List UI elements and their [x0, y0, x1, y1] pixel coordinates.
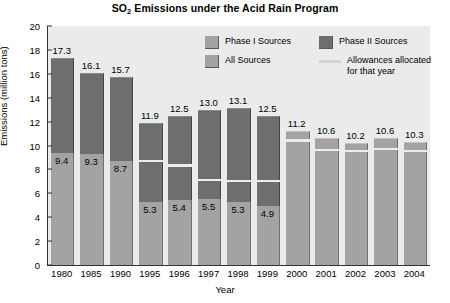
allowance-line — [168, 164, 192, 167]
legend-label-allowances: Allowances allocatedfor that year — [347, 55, 431, 76]
bar-total-label: 13.0 — [199, 97, 218, 108]
bar-segment-phase-ii[interactable] — [80, 73, 104, 154]
x-tick-label: 1996 — [169, 268, 190, 279]
legend-swatch-icon-phase-ii — [319, 36, 333, 49]
bar-group[interactable] — [168, 116, 192, 265]
bar-group[interactable] — [257, 116, 281, 265]
bar-group[interactable] — [80, 73, 104, 265]
bar-total-label: 10.2 — [346, 130, 365, 141]
bar-segment-phase-i[interactable] — [51, 153, 75, 265]
bar-segment-phase-i[interactable] — [110, 161, 134, 265]
y-tick-mark — [47, 217, 52, 218]
bar-total-label: 13.1 — [229, 95, 248, 106]
bar-total-label: 12.5 — [170, 103, 189, 114]
bar-segment-all-sources[interactable] — [374, 138, 398, 265]
chart-legend: Phase I Sources Phase II Sources All Sou… — [205, 36, 433, 82]
bar-phase-i-label: 4.9 — [261, 208, 274, 219]
y-tick-mark — [47, 193, 52, 194]
bar-segment-phase-ii[interactable] — [198, 110, 222, 200]
chart-title-main: SO — [112, 2, 127, 14]
bar-segment-phase-i[interactable] — [80, 154, 104, 265]
bar-segment-phase-ii[interactable] — [110, 77, 134, 161]
legend-line-icon-allowances — [319, 55, 341, 67]
bar-phase-i-label: 9.3 — [84, 156, 97, 167]
bar-total-label: 16.1 — [82, 60, 101, 71]
legend-label-all-sources: All Sources — [225, 55, 271, 66]
bar-phase-i-label: 9.4 — [55, 155, 68, 166]
bar-total-label: 10.3 — [405, 129, 424, 140]
y-tick-label: 18 — [29, 44, 47, 55]
legend-row-1: Phase I Sources Phase II Sources — [205, 36, 433, 49]
bar-group[interactable] — [315, 138, 339, 265]
x-tick-label: 1997 — [198, 268, 219, 279]
bar-segment-phase-ii[interactable] — [257, 116, 281, 207]
bar-segment-all-sources[interactable] — [315, 138, 339, 265]
x-tick-label: 2001 — [316, 268, 337, 279]
x-tick-label: 2004 — [404, 268, 425, 279]
bar-segment-all-sources[interactable] — [345, 143, 369, 265]
bar-total-label: 12.5 — [258, 103, 277, 114]
y-tick-mark — [47, 265, 52, 266]
chart-title: SO2 Emissions under the Acid Rain Progra… — [0, 2, 450, 14]
allowance-line — [374, 148, 398, 151]
bar-total-label: 10.6 — [317, 125, 336, 136]
y-tick-label: 16 — [29, 68, 47, 79]
allowance-line — [257, 180, 281, 183]
bar-segment-phase-ii[interactable] — [51, 58, 75, 152]
bar-group[interactable] — [404, 142, 428, 265]
y-tick-mark — [47, 26, 52, 27]
x-tick-label: 1999 — [257, 268, 278, 279]
y-tick-label: 20 — [29, 21, 47, 32]
x-tick-label: 1990 — [110, 268, 131, 279]
y-tick-label: 0 — [35, 260, 47, 271]
y-tick-label: 8 — [35, 164, 47, 175]
legend-item-phase-i: Phase I Sources — [205, 36, 319, 49]
x-tick-label: 1998 — [227, 268, 248, 279]
so2-emissions-chart: SO2 Emissions under the Acid Rain Progra… — [0, 0, 450, 303]
y-tick-label: 4 — [35, 212, 47, 223]
allowance-line — [404, 150, 428, 153]
y-tick-mark — [47, 49, 52, 50]
y-tick-mark — [47, 241, 52, 242]
bar-segment-all-sources[interactable] — [286, 131, 310, 265]
legend-item-phase-ii: Phase II Sources — [319, 36, 408, 49]
legend-item-allowances: Allowances allocatedfor that year — [319, 55, 431, 76]
x-tick-label: 1980 — [51, 268, 72, 279]
x-axis-label: Year — [0, 284, 450, 295]
bar-segment-phase-ii[interactable] — [139, 123, 163, 202]
allowance-line — [139, 160, 163, 163]
y-tick-label: 6 — [35, 188, 47, 199]
y-tick-label: 12 — [29, 116, 47, 127]
bar-group[interactable] — [374, 138, 398, 265]
bar-group[interactable] — [345, 143, 369, 265]
bar-segment-phase-ii[interactable] — [168, 116, 192, 201]
y-tick-label: 14 — [29, 92, 47, 103]
bar-total-label: 15.7 — [111, 64, 130, 75]
x-tick-label: 1985 — [80, 268, 101, 279]
y-tick-mark — [47, 169, 52, 170]
bar-group[interactable] — [139, 123, 163, 265]
legend-label-phase-ii: Phase II Sources — [339, 36, 408, 47]
bar-phase-i-label: 5.4 — [173, 202, 186, 213]
bar-segment-phase-ii[interactable] — [227, 108, 251, 201]
allowance-line — [315, 149, 339, 152]
bar-group[interactable] — [198, 110, 222, 265]
bar-phase-i-label: 5.3 — [231, 204, 244, 215]
legend-swatch-icon-phase-i — [205, 36, 219, 49]
allowance-line — [227, 180, 251, 183]
y-axis-label: Emissions (million tons) — [0, 46, 9, 146]
legend-row-2: All Sources Allowances allocatedfor that… — [205, 55, 433, 76]
allowance-line — [345, 150, 369, 153]
bar-total-label: 11.2 — [288, 118, 306, 129]
x-tick-label: 2002 — [345, 268, 366, 279]
legend-item-all-sources: All Sources — [205, 55, 319, 68]
legend-label-phase-i: Phase I Sources — [225, 36, 291, 47]
y-tick-label: 2 — [35, 236, 47, 247]
y-tick-label: 10 — [29, 140, 47, 151]
bar-group[interactable] — [286, 131, 310, 265]
bar-total-label: 17.3 — [52, 45, 71, 56]
x-tick-label: 2000 — [286, 268, 307, 279]
bar-phase-i-label: 8.7 — [114, 163, 127, 174]
bar-group[interactable] — [227, 108, 251, 265]
bar-segment-all-sources[interactable] — [404, 142, 428, 265]
